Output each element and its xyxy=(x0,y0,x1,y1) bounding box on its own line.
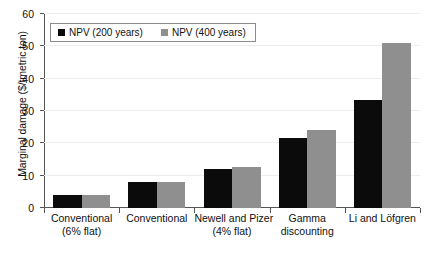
legend-label: NPV (400 years) xyxy=(172,27,246,38)
category-label: Gammadiscounting xyxy=(270,212,345,238)
bar xyxy=(128,182,157,209)
category-label-line: discounting xyxy=(270,225,345,238)
y-axis-tick xyxy=(40,142,44,143)
y-axis-tick xyxy=(40,78,44,79)
y-axis-tick xyxy=(40,175,44,176)
y-axis-tick xyxy=(40,45,44,46)
bar xyxy=(157,182,186,208)
category-label-line: Conventional xyxy=(44,212,119,225)
category-label: Newell and Pizer(4% flat) xyxy=(194,212,269,238)
bar xyxy=(354,100,383,208)
y-axis-tick-label: 50 xyxy=(22,40,34,52)
bar xyxy=(82,195,111,208)
plot-area: 0102030405060 xyxy=(44,14,420,208)
bar-chart-figure: Marginal damage ($/tmetric ton) 01020304… xyxy=(0,0,425,253)
category-label-line: (4% flat) xyxy=(194,225,269,238)
y-axis-tick-label: 40 xyxy=(22,73,34,85)
gridline xyxy=(44,45,420,46)
legend-swatch-icon xyxy=(58,29,65,36)
y-axis-tick-label: 30 xyxy=(22,105,34,117)
legend-swatch-icon xyxy=(161,29,168,36)
category-label-line: Newell and Pizer xyxy=(194,212,269,225)
category-label-line: Li and Löfgren xyxy=(345,212,420,225)
category-label-line: Gamma xyxy=(270,212,345,225)
legend-item: NPV (200 years) xyxy=(58,27,143,38)
chart-legend: NPV (200 years)NPV (400 years) xyxy=(50,23,256,42)
bar xyxy=(279,138,308,208)
y-axis-line xyxy=(44,14,45,208)
y-axis-tick-label: 0 xyxy=(28,202,34,214)
y-axis-tick xyxy=(40,13,44,14)
category-label-line: Conventional xyxy=(119,212,194,225)
gridline xyxy=(44,13,420,14)
category-label: Li and Löfgren xyxy=(345,212,420,225)
y-axis-tick xyxy=(40,110,44,111)
bar xyxy=(307,130,336,208)
legend-item: NPV (400 years) xyxy=(161,27,246,38)
bar xyxy=(382,43,411,208)
y-axis-tick-label: 10 xyxy=(22,170,34,182)
legend-label: NPV (200 years) xyxy=(69,27,143,38)
category-label-line: (6% flat) xyxy=(44,225,119,238)
category-label: Conventional xyxy=(119,212,194,225)
x-axis-tick xyxy=(420,208,421,213)
bar xyxy=(53,195,82,208)
gridline xyxy=(44,78,420,79)
bar xyxy=(204,169,233,208)
y-axis-tick-label: 20 xyxy=(22,137,34,149)
y-axis-tick-label: 60 xyxy=(22,8,34,20)
bar xyxy=(232,167,261,208)
category-label: Conventional(6% flat) xyxy=(44,212,119,238)
plot-inner: 0102030405060 xyxy=(44,14,420,208)
